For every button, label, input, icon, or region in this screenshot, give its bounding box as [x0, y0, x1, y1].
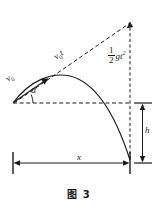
- h-arrowhead-up: [140, 104, 145, 111]
- alpha-label: α: [31, 85, 36, 95]
- x-arrowhead-left: [14, 160, 21, 166]
- x-arrowhead-right: [123, 160, 130, 166]
- v0-vector-line: [14, 80, 46, 102]
- half-g-t-squared-label: 1 2 gt2: [108, 46, 126, 66]
- figure-container: v0 v0t α 1 2 gt2 h x 图 3: [0, 0, 158, 213]
- one-half-fraction: 1 2: [108, 46, 115, 66]
- gt-exponent: 2: [123, 50, 126, 56]
- v0t-arrowhead: [127, 22, 134, 28]
- x-label: x: [74, 153, 84, 162]
- h-arrowhead-down: [140, 156, 145, 163]
- projectile-motion-diagram: [0, 0, 158, 213]
- angle-arc: [31, 95, 33, 104]
- h-label: h: [145, 126, 150, 135]
- gt-base: gt: [116, 51, 123, 61]
- figure-caption: 图 3: [0, 186, 158, 201]
- fraction-denominator: 2: [108, 56, 115, 65]
- gt-term: gt2: [116, 50, 126, 61]
- fraction-numerator: 1: [108, 46, 115, 55]
